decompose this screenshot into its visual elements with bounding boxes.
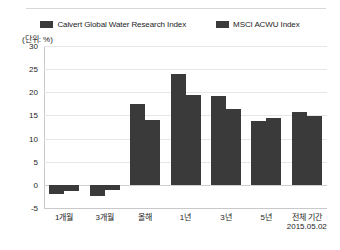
x-tick-label-5: 5년 [261,211,272,222]
legend-swatch-calvert-icon [40,21,53,28]
chart-legend: Calvert Global Water Research Index MSCI… [0,17,340,31]
bar-msci-1 [105,185,120,191]
y-tick-label-10: 10 [0,134,38,143]
bar-msci-6 [307,116,322,185]
top-divider [26,8,326,9]
bar-msci-4 [226,109,241,184]
y-tick-label-25: 25 [0,65,38,74]
bar-calvert-1 [90,185,105,197]
legend-item-calvert: Calvert Global Water Research Index [40,20,186,29]
y-tick-label-5: 5 [0,157,38,166]
bar-series-group [44,46,327,208]
bar-calvert-3 [171,74,186,185]
x-tick-label-0: 1개월 [55,211,73,222]
bar-msci-5 [266,118,281,185]
x-tick-label-2: 올해 [138,211,152,222]
y-tick-label--5: -5 [0,204,38,213]
y-tick-label-30: 30 [0,42,38,51]
bar-calvert-4 [211,96,226,185]
legend-swatch-msci-icon [216,21,229,28]
chart-screenshot: Calvert Global Water Research Index MSCI… [0,0,340,250]
bar-calvert-2 [130,104,145,185]
bar-msci-3 [186,95,201,185]
y-tick-label-15: 15 [0,111,38,120]
legend-item-msci: MSCI ACWU Index [216,20,300,29]
bar-calvert-6 [292,112,307,185]
y-tick-label-0: 0 [0,180,38,189]
x-tick-label-4: 3년 [220,211,231,222]
x-tick-label-1: 3개월 [95,211,113,222]
x-tick-label-6: 전체 기간 [292,211,322,222]
x-axis-labels: 1개월3개월올해1년3년5년전체 기간2015.05.02 [44,211,327,241]
y-tick-label-20: 20 [0,88,38,97]
legend-label-calvert: Calvert Global Water Research Index [57,20,186,29]
bar-msci-2 [145,120,160,185]
x-tick-label-3: 1년 [180,211,191,222]
bar-msci-0 [64,185,79,191]
bar-calvert-5 [251,121,266,185]
legend-label-msci: MSCI ACWU Index [233,20,300,29]
x-axis-date-label: 2015.05.02 [287,222,327,231]
gridline--5 [44,208,327,209]
plot-area [44,46,327,208]
bar-calvert-0 [49,185,64,194]
